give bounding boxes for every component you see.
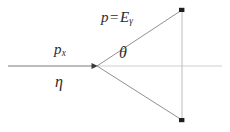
photon-energy-symbol: E: [120, 9, 129, 25]
lower-outgoing-ray: [97, 66, 181, 119]
incoming-momentum-label: px: [54, 42, 66, 59]
incoming-momentum-symbol: p: [54, 41, 62, 57]
photon-momentum-label: p=Eγ: [101, 10, 133, 27]
upper-endpoint-marker: [179, 8, 184, 12]
photon-energy-subscript: γ: [129, 16, 133, 26]
lower-endpoint-marker: [179, 118, 184, 122]
scattering-angle-label: θ: [119, 45, 127, 61]
photon-momentum-symbol: p: [101, 9, 109, 25]
incoming-arrowhead-icon: [92, 63, 98, 69]
photon-equals-sign: =: [109, 9, 120, 25]
incoming-momentum-subscript: x: [62, 48, 66, 58]
diagram-canvas: p=Eγ px η θ: [0, 0, 230, 132]
pseudorapidity-label: η: [55, 74, 63, 90]
